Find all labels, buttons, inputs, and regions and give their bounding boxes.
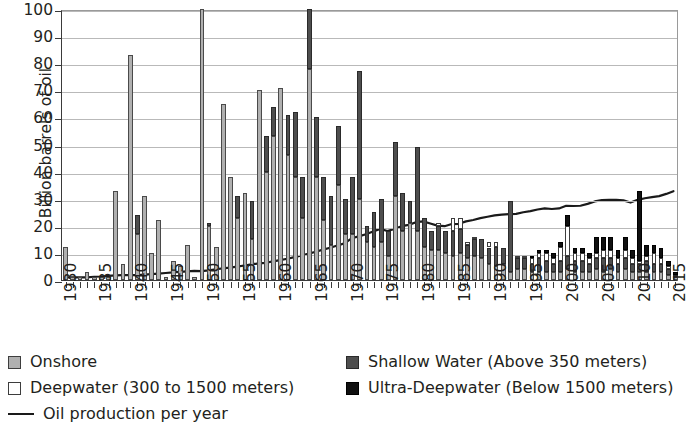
bar-segment-deep bbox=[494, 242, 499, 247]
x-axis-tick-label: 2015 bbox=[673, 263, 689, 302]
bar-segment-ultra bbox=[644, 245, 649, 256]
bar-segment-shallow bbox=[379, 199, 384, 242]
bar-1973 bbox=[372, 212, 377, 280]
bar-segment-shallow bbox=[408, 201, 413, 223]
bar-segment-shallow bbox=[501, 248, 506, 264]
x-axis-tick bbox=[439, 282, 440, 288]
y-axis-tick-label: 40 bbox=[7, 166, 53, 182]
y-axis-tick-label: 10 bbox=[7, 247, 53, 263]
x-axis-tick-label: 1960 bbox=[279, 263, 295, 302]
x-axis-tick-label: 1980 bbox=[422, 263, 438, 302]
x-axis-tick bbox=[238, 282, 239, 288]
bar-segment-ultra bbox=[530, 256, 535, 259]
legend-item-deepwater: Deepwater (300 to 1500 meters) bbox=[8, 380, 346, 396]
bar-segment-onshore bbox=[271, 136, 276, 280]
y-axis-tick bbox=[55, 174, 62, 175]
bar-segment-shallow bbox=[630, 264, 635, 272]
bar-1961 bbox=[286, 115, 291, 280]
legend-swatch-ultra-deepwater-icon bbox=[346, 382, 359, 395]
bar-segment-deep bbox=[487, 242, 492, 247]
x-axis-tick bbox=[632, 282, 633, 288]
x-axis-tick bbox=[231, 282, 232, 288]
x-axis-tick bbox=[661, 282, 662, 288]
x-axis-tick bbox=[668, 282, 669, 288]
legend-item-onshore: Onshore bbox=[8, 354, 346, 370]
x-axis-tick bbox=[525, 282, 526, 288]
x-axis-tick bbox=[266, 282, 267, 288]
bar-segment-onshore bbox=[257, 90, 262, 280]
bar-segment-deep bbox=[537, 253, 542, 258]
legend-row-3: Oil production per year bbox=[8, 401, 680, 426]
bar-segment-shallow bbox=[293, 112, 298, 177]
y-axis-tick-label: 20 bbox=[7, 220, 53, 236]
x-axis-tick bbox=[152, 282, 153, 288]
bar-segment-onshore bbox=[121, 264, 126, 280]
x-axis-tick bbox=[223, 282, 224, 288]
bar-2013 bbox=[659, 247, 664, 280]
bar-segment-onshore bbox=[264, 172, 269, 280]
bar-segment-deep bbox=[558, 247, 563, 261]
x-axis-tick bbox=[596, 282, 597, 288]
y-axis-tick-label: 100 bbox=[7, 3, 53, 19]
y-axis-tick-label: 60 bbox=[7, 111, 53, 127]
bar-segment-shallow bbox=[472, 239, 477, 255]
x-axis-tick bbox=[159, 282, 160, 288]
x-axis-tick bbox=[403, 282, 404, 288]
x-axis-tick bbox=[654, 282, 655, 288]
bar-segment-deep bbox=[587, 258, 592, 263]
bar-segment-ultra bbox=[652, 245, 657, 253]
bar-segment-onshore bbox=[128, 55, 133, 280]
legend-label-ultra-deepwater: Ultra-Deepwater (Below 1500 meters) bbox=[368, 380, 673, 396]
legend-swatch-onshore-icon bbox=[8, 356, 21, 369]
bar-segment-shallow bbox=[264, 136, 269, 171]
bar-segment-shallow bbox=[250, 201, 255, 239]
x-axis-tick bbox=[489, 282, 490, 288]
bar-segment-deep bbox=[472, 237, 477, 240]
y-axis-tick bbox=[55, 92, 62, 93]
bar-segment-onshore bbox=[286, 155, 291, 280]
bar-1963 bbox=[300, 177, 305, 280]
x-axis-tick bbox=[116, 282, 117, 288]
bar-segment-onshore bbox=[558, 272, 563, 280]
bar-segment-ultra bbox=[580, 248, 585, 253]
bar-1944 bbox=[164, 277, 169, 280]
bar-segment-ultra bbox=[616, 250, 621, 258]
x-axis-tick bbox=[202, 282, 203, 288]
bar-1969 bbox=[343, 199, 348, 280]
bar-segment-shallow bbox=[666, 269, 671, 274]
y-axis-tick bbox=[55, 119, 62, 120]
bar-1949 bbox=[200, 9, 205, 280]
bar-segment-ultra bbox=[558, 242, 563, 247]
bar-segment-onshore bbox=[343, 234, 348, 280]
bar-1953 bbox=[228, 177, 233, 280]
gridline bbox=[62, 11, 677, 12]
bar-segment-deep bbox=[515, 256, 520, 259]
y-axis-tick-label: 80 bbox=[7, 57, 53, 73]
bar-segment-onshore bbox=[164, 277, 169, 280]
bar-segment-shallow bbox=[429, 231, 434, 250]
bar-segment-deep bbox=[644, 256, 649, 261]
bar-1988 bbox=[479, 239, 484, 280]
gridline bbox=[62, 174, 677, 175]
gridline bbox=[62, 201, 677, 202]
bar-segment-onshore bbox=[659, 272, 664, 280]
bar-2014 bbox=[666, 261, 671, 280]
bar-segment-shallow bbox=[300, 177, 305, 218]
plot-area: 0102030405060708090100193019351940194519… bbox=[61, 10, 678, 281]
bar-segment-shallow bbox=[321, 177, 326, 220]
y-axis-tick bbox=[55, 255, 62, 256]
x-axis-tick-label: 2000 bbox=[566, 263, 582, 302]
bar-segment-ultra bbox=[594, 237, 599, 253]
bar-1983 bbox=[443, 231, 448, 280]
bar-1965 bbox=[314, 117, 319, 280]
bar-segment-shallow bbox=[465, 245, 470, 259]
bar-segment-deep bbox=[573, 253, 578, 261]
bar-1934 bbox=[92, 277, 97, 280]
bar-segment-ultra bbox=[666, 261, 671, 266]
bar-segment-onshore bbox=[587, 272, 592, 280]
bar-1948 bbox=[192, 277, 197, 280]
bar-1993 bbox=[515, 256, 520, 280]
bar-1958 bbox=[264, 136, 269, 280]
bar-segment-onshore bbox=[200, 9, 205, 280]
bar-1938 bbox=[121, 264, 126, 280]
